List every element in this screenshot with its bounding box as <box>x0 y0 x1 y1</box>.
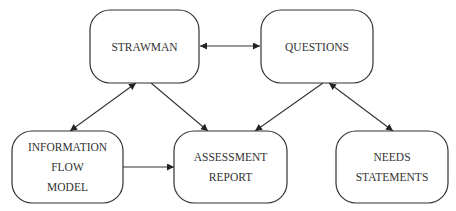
node-info-flow: INFORMATIONFLOWMODEL <box>12 131 123 203</box>
node-label: NEEDS <box>373 151 410 163</box>
node-label: QUESTIONS <box>285 41 349 53</box>
node-assessment: ASSESSMENTREPORT <box>174 131 287 203</box>
node-questions: QUESTIONS <box>261 10 373 83</box>
arrow-questions-to-needs-bidirectional <box>329 83 393 131</box>
node-label: FLOW <box>51 161 84 173</box>
node-needs: NEEDSSTATEMENTS <box>336 131 448 203</box>
node-label: MODEL <box>47 181 88 193</box>
node-label: ASSESSMENT <box>194 151 268 163</box>
node-strawman: STRAWMAN <box>90 10 199 83</box>
node-box <box>174 131 287 203</box>
node-label: INFORMATION <box>28 141 108 153</box>
node-box <box>336 131 448 203</box>
arrow-strawman-to-info-flow-bidirectional <box>70 83 136 131</box>
node-label: STRAWMAN <box>111 41 178 53</box>
node-label: STATEMENTS <box>356 171 429 183</box>
flow-diagram: STRAWMANQUESTIONSINFORMATIONFLOWMODELASS… <box>0 0 456 211</box>
arrow-questions-to-assessment <box>255 83 323 131</box>
arrow-strawman-to-assessment <box>151 83 208 131</box>
nodes-layer: STRAWMANQUESTIONSINFORMATIONFLOWMODELASS… <box>12 10 448 203</box>
node-label: REPORT <box>209 171 252 183</box>
